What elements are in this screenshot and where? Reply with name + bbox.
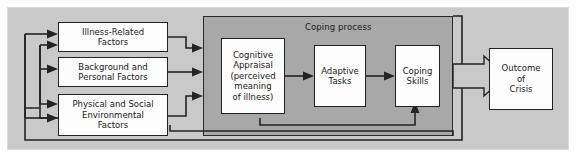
outcome-of-crisis-box: OutcomeofCrisis (489, 48, 553, 110)
coping-skills-box: CopingSkills (395, 45, 440, 107)
cognitive-appraisal-label: CognitiveAppraisal(perceivedmeaningof il… (230, 50, 275, 102)
cognitive-appraisal-box: CognitiveAppraisal(perceivedmeaningof il… (221, 38, 285, 114)
background-and-personal-factors-box: Background andPersonal Factors (58, 57, 168, 87)
diagram-canvas: Coping process (0, 0, 576, 164)
physical-and-social-environmental-factors-label: Physical and SocialEnvironmentalFactors (72, 99, 153, 130)
physical-and-social-environmental-factors-box: Physical and SocialEnvironmentalFactors (58, 94, 168, 136)
coping-process-label: Coping process (305, 22, 371, 32)
background-and-personal-factors-label: Background andPersonal Factors (78, 62, 147, 83)
adaptive-tasks-box: AdaptiveTasks (314, 45, 366, 107)
illness-related-factors-label: Illness-RelatedFactors (82, 27, 144, 48)
adaptive-tasks-label: AdaptiveTasks (321, 66, 359, 87)
illness-related-factors-box: Illness-RelatedFactors (58, 22, 168, 52)
outcome-of-crisis-label: OutcomeofCrisis (502, 63, 541, 94)
coping-skills-label: CopingSkills (403, 66, 433, 87)
